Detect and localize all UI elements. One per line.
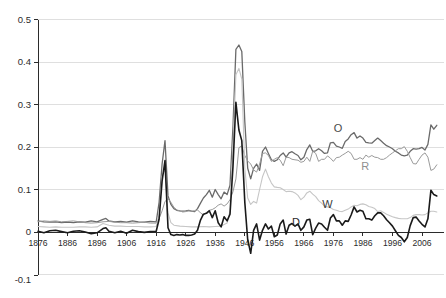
- y-tick-label: 0.2: [18, 141, 31, 152]
- series-label-R: R: [361, 160, 369, 172]
- x-tick-label: 1976: [324, 238, 343, 248]
- series-label-O: O: [334, 122, 343, 134]
- x-tick-label: 2006: [412, 238, 431, 248]
- y-tick-label: 0: [26, 226, 31, 237]
- series-W-line: [38, 68, 437, 227]
- series-D-line: [38, 102, 437, 253]
- x-tick-label: 1916: [147, 238, 166, 248]
- x-tick-label: 1956: [265, 238, 284, 248]
- x-tick-label: 1926: [176, 238, 195, 248]
- y-tick-label: 0.3: [18, 99, 31, 110]
- x-tick-label: 1936: [206, 238, 225, 248]
- y-tick-label: 0.5: [18, 14, 31, 25]
- x-tick-label: 1966: [294, 238, 313, 248]
- x-tick-label: 1986: [353, 238, 372, 248]
- chart-figure: 1876188618961906191619261936194619561966…: [0, 0, 446, 298]
- x-tick-label: 1896: [88, 238, 107, 248]
- y-tick-label: -0.1: [15, 274, 31, 285]
- x-tick-label: 1906: [117, 238, 136, 248]
- y-tick-label: 0.1: [18, 184, 31, 195]
- series-label-D: D: [292, 216, 300, 228]
- x-tick-label: 1996: [383, 238, 402, 248]
- series-label-W: W: [322, 198, 333, 210]
- y-tick-label: 0.4: [18, 56, 31, 67]
- x-tick-label: 1886: [58, 238, 77, 248]
- chart-canvas: 1876188618961906191619261936194619561966…: [0, 0, 446, 298]
